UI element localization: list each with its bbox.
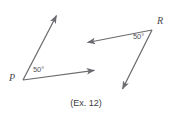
figure-caption: (Ex. 12) xyxy=(0,99,172,108)
vertex-label-p: P xyxy=(9,73,15,83)
angle-measure-r: 50° xyxy=(133,33,144,41)
angle-measure-p: 50° xyxy=(33,66,44,74)
geometry-figure: P 50° R 50° (Ex. 12) xyxy=(0,0,172,118)
vertex-label-r: R xyxy=(157,16,163,26)
